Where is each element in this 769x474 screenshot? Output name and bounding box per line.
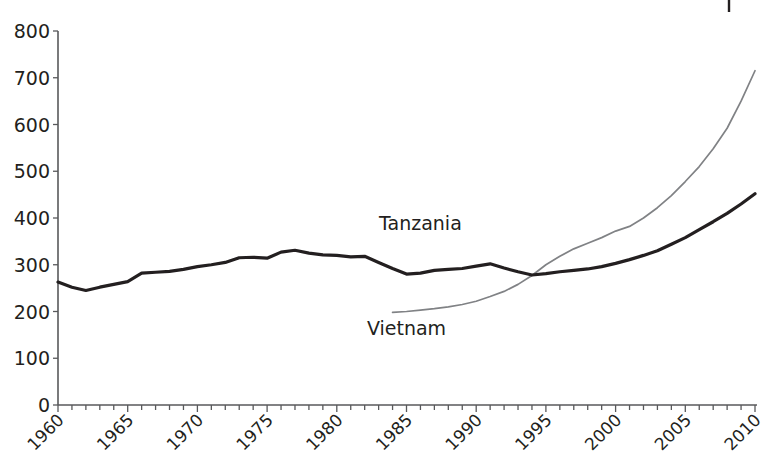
x-axis-minor-ticks [58,405,755,412]
y-tick-label: 700 [14,67,50,89]
x-tick-label: 1985 [372,410,417,455]
x-tick-label: 1960 [23,410,68,455]
vietnam-label: Vietnam [367,317,446,339]
series-line-tanzania [58,194,755,291]
x-tick-label: 1990 [441,410,486,455]
y-tick-label: 300 [14,254,50,276]
y-tick-label: 0 [38,394,50,416]
x-tick-label: 1975 [232,410,277,455]
y-tick-label: 500 [14,160,50,182]
y-tick-label: 100 [14,347,50,369]
y-tick-label: 200 [14,301,50,323]
x-tick-label: 2010 [720,410,765,455]
tanzania-label: Tanzania [378,212,462,234]
x-tick-label: 1995 [511,410,556,455]
x-tick-label: 1965 [93,410,138,455]
x-tick-label: 2005 [650,410,695,455]
y-tick-label: 600 [14,114,50,136]
x-tick-label: 1980 [302,410,347,455]
y-tick-label: 800 [14,20,50,42]
x-tick-label: 2000 [581,410,626,455]
line-chart: 0100200300400500600700800 19601965197019… [0,0,769,474]
chart-canvas: 0100200300400500600700800 19601965197019… [0,0,769,474]
x-axis-tick-labels: 1960196519701975198019851990199520002005… [23,410,765,455]
y-tick-label: 400 [14,207,50,229]
x-tick-label: 1970 [162,410,207,455]
series-annotations: TanzaniaVietnam [367,212,462,339]
y-axis-tick-labels: 0100200300400500600700800 [14,20,50,416]
series-line-vietnam [393,71,755,313]
